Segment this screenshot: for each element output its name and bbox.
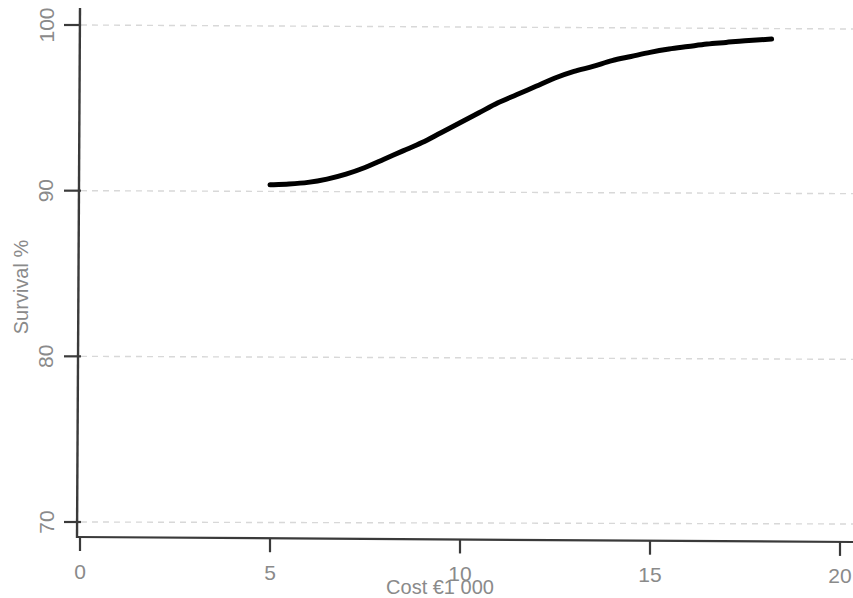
series-group bbox=[270, 39, 772, 185]
y-tick-label-100: 100 bbox=[35, 7, 58, 42]
y-tick-label-80: 80 bbox=[35, 345, 58, 368]
gridline-80 bbox=[81, 356, 853, 359]
gridline-100 bbox=[81, 25, 853, 29]
gridline-70 bbox=[81, 522, 853, 524]
y-axis-line bbox=[77, 8, 80, 538]
x-axis-title: Cost €1 000 bbox=[386, 576, 494, 598]
gridline-90 bbox=[81, 191, 853, 194]
y-tick-label-90: 90 bbox=[35, 179, 58, 202]
x-tick-label-20: 20 bbox=[828, 564, 851, 587]
x-axis: 05101520Cost €1 000 bbox=[74, 537, 853, 598]
y-axis-title: Survival % bbox=[10, 240, 32, 335]
series-line-0 bbox=[270, 39, 772, 185]
x-tick-label-0: 0 bbox=[74, 560, 86, 583]
x-axis-line bbox=[77, 537, 853, 542]
gridlines bbox=[81, 25, 853, 524]
chart-canvas: 708090100Survival %05101520Cost €1 000 bbox=[0, 0, 853, 598]
y-axis: 708090100Survival % bbox=[10, 7, 81, 538]
x-tick-label-5: 5 bbox=[264, 561, 276, 584]
x-tick-label-15: 15 bbox=[638, 563, 661, 586]
y-tick-label-70: 70 bbox=[35, 510, 58, 533]
survival-cost-chart: 708090100Survival %05101520Cost €1 000 bbox=[0, 0, 853, 598]
